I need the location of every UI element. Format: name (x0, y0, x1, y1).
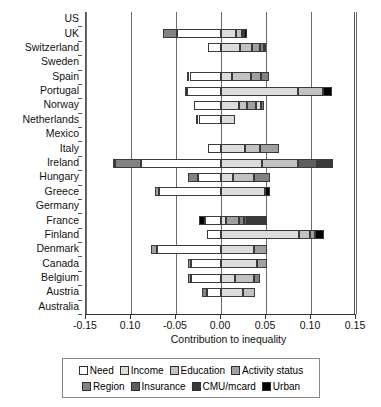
bar-segment-education (262, 159, 298, 168)
bar-segment-education (239, 101, 247, 110)
y-axis-label-italy: Italy (60, 143, 79, 154)
bar-segment-cmu-mcard (247, 216, 267, 225)
legend: NeedIncomeEducationActivity status Regio… (62, 358, 320, 398)
x-tick-label-1: 0.10 (120, 319, 140, 331)
bar-italy (86, 144, 354, 153)
bar-segment-need (191, 259, 221, 268)
bar-segment-need (208, 144, 221, 153)
bar-sweden (86, 58, 354, 67)
legend-swatch-icon (79, 366, 88, 375)
legend-item-income[interactable]: Income (120, 365, 164, 376)
legend-item-education[interactable]: Education (170, 365, 225, 376)
y-axis-label-portugal: Portugal (40, 85, 79, 96)
bar-segment-income (221, 43, 240, 52)
legend-swatch-icon (192, 382, 201, 391)
y-axis-labels: USUKSwitzerlandSwedenSpainPortugalNorway… (0, 12, 82, 314)
legend-swatch-icon (170, 366, 179, 375)
bar-segment-urban (264, 43, 266, 52)
legend-swatch-icon (82, 382, 91, 391)
bar-segment-income (221, 259, 257, 268)
bar-segment-urban (323, 87, 332, 96)
bar-segment-activity-status (226, 216, 239, 225)
bar-segment-need (208, 43, 221, 52)
bar-segment-income (221, 274, 235, 283)
bar-segment-income (221, 101, 239, 110)
legend-label: Urban (273, 381, 300, 392)
bar-segment-cmu-mcard (317, 159, 333, 168)
y-axis-label-netherlands: Netherlands (22, 114, 79, 125)
bar-segment-region (254, 274, 259, 283)
y-axis-label-austria: Austria (46, 286, 79, 297)
x-tick-label-3: 0.00 (210, 319, 230, 331)
legend-item-insurance[interactable]: Insurance (131, 381, 186, 392)
bar-greece (86, 187, 354, 196)
bar-segment-need (157, 245, 221, 254)
bar-segment-urban (315, 230, 325, 239)
bar-australia (86, 302, 354, 311)
legend-label: Activity status (242, 365, 303, 376)
bar-portugal (86, 87, 354, 96)
bar-segment-activity-status (251, 72, 261, 81)
bar-segment-need (194, 101, 221, 110)
bar-segment-income (221, 115, 235, 124)
y-axis-label-uk: UK (64, 28, 79, 39)
y-axis-label-belgium: Belgium (41, 272, 79, 283)
bar-segment-region (188, 173, 198, 182)
y-axis-label-denmark: Denmark (36, 243, 79, 254)
legend-swatch-icon (231, 366, 240, 375)
bar-segment-activity-status (252, 43, 260, 52)
bar-segment-income (221, 288, 243, 297)
bar-segment-urban (244, 29, 247, 38)
bar-segment-region (254, 173, 269, 182)
legend-swatch-icon (120, 366, 129, 375)
bar-segment-need (199, 115, 222, 124)
bar-segment-insurance (298, 159, 318, 168)
y-axis-label-sweden: Sweden (41, 56, 79, 67)
bar-austria (86, 288, 354, 297)
bar-segment-need (187, 87, 221, 96)
bar-uk (86, 29, 354, 38)
bar-segment-income (221, 29, 236, 38)
legend-item-activity-status[interactable]: Activity status (231, 365, 303, 376)
bar-finland (86, 230, 354, 239)
bar-segment-income (221, 187, 265, 196)
bar-segment-education (240, 43, 251, 52)
x-tick-label-5: 0.10 (300, 319, 320, 331)
legend-swatch-icon (262, 382, 271, 391)
bar-segment-need (198, 173, 221, 182)
bar-segment-need (191, 274, 221, 283)
bar-us (86, 15, 354, 24)
y-axis-label-switzerland: Switzerland (25, 42, 79, 53)
y-axis-label-hungary: Hungary (39, 171, 79, 182)
legend-label: Region (93, 381, 125, 392)
legend-item-need[interactable]: Need (79, 365, 114, 376)
legend-label: Education (181, 365, 225, 376)
x-axis-tick-labels: -0.150.10-0.050.000.050.100.15 (0, 319, 381, 333)
bar-segment-region (261, 72, 269, 81)
legend-item-cmu-mcard[interactable]: CMU/mcard (192, 381, 256, 392)
bar-denmark (86, 245, 354, 254)
y-axis-label-spain: Spain (52, 71, 79, 82)
legend-item-urban[interactable]: Urban (262, 381, 300, 392)
x-tick-label-4: 0.05 (255, 319, 275, 331)
legend-item-region[interactable]: Region (82, 381, 125, 392)
y-axis-label-france: France (46, 215, 79, 226)
bar-segment-education (243, 288, 255, 297)
legend-label: Insurance (142, 381, 186, 392)
x-tick-label-6: 0.15 (345, 319, 365, 331)
bar-canada (86, 259, 354, 268)
y-axis-label-us: US (64, 13, 79, 24)
y-axis-label-finland: Finland (45, 229, 79, 240)
bar-segment-activity-status (257, 259, 267, 268)
bar-segment-need (205, 216, 221, 225)
bar-segment-region (115, 159, 141, 168)
bar-norway (86, 101, 354, 110)
y-axis-label-germany: Germany (36, 200, 79, 211)
y-axis-label-norway: Norway (43, 99, 79, 110)
y-axis-label-ireland: Ireland (47, 157, 79, 168)
bar-ireland (86, 159, 354, 168)
x-axis-title: Contribution to inequality (0, 333, 381, 345)
y-axis-label-mexico: Mexico (46, 128, 79, 139)
bar-switzerland (86, 43, 354, 52)
legend-row-top: NeedIncomeEducationActivity status (65, 362, 317, 378)
